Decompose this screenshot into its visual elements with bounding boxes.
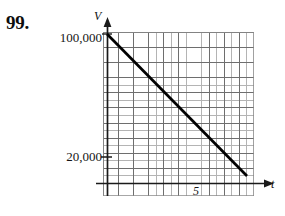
- y-tick-label-100000: 100,000: [60, 30, 102, 46]
- x-axis-label: t: [271, 177, 274, 192]
- value-depreciation-line: [107, 34, 247, 176]
- y-axis-label: V: [94, 9, 101, 24]
- figure-canvas: 99. V t 100,000 20,000 5: [0, 0, 285, 216]
- y-tick-label-20000: 20,000: [66, 149, 102, 165]
- x-tick-label-5: 5: [193, 184, 199, 199]
- y-axis-arrowhead: [104, 17, 112, 27]
- graph-overlay: [0, 0, 285, 216]
- graph-plot: V t 100,000 20,000 5: [0, 0, 285, 216]
